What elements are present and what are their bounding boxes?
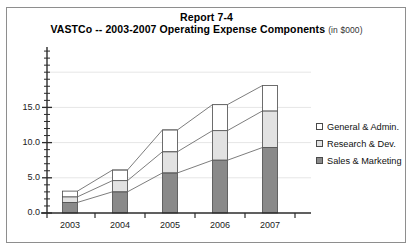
- x-tick-label-2004: 2004: [100, 220, 140, 230]
- bar-segment-sales-marketing-2005: [163, 173, 178, 213]
- bar-segment-general-admin-2004: [113, 170, 128, 181]
- bar-segment-general-admin-2006: [213, 105, 228, 131]
- chart-figure: Report 7-4 VASTCo -- 2003-2007 Operating…: [0, 0, 413, 250]
- y-tick-label-3: 15.0: [10, 102, 40, 112]
- bar-group-2006: [213, 105, 228, 213]
- legend-label-research-dev: Research & Dev.: [327, 139, 396, 149]
- bar-segment-sales-marketing-2007: [263, 148, 278, 214]
- bar-segment-research-dev-2007: [263, 111, 278, 148]
- bar-segment-sales-marketing-2006: [213, 160, 228, 213]
- legend-swatch-general-admin: [316, 123, 323, 130]
- legend-item-research-dev: Research & Dev.: [316, 136, 411, 151]
- y-tick-label-1: 5.0: [10, 172, 40, 182]
- bar-segment-general-admin-2005: [163, 130, 178, 152]
- legend-swatch-sales-marketing: [316, 157, 323, 164]
- x-tick-label-2006: 2006: [200, 220, 240, 230]
- legend-label-general-admin: General & Admin.: [327, 122, 399, 132]
- x-tick-label-2007: 2007: [250, 220, 290, 230]
- bar-segment-sales-marketing-2003: [63, 202, 78, 213]
- bar-segment-general-admin-2003: [63, 191, 78, 197]
- bar-segment-sales-marketing-2004: [113, 192, 128, 213]
- x-tick-label-2005: 2005: [150, 220, 190, 230]
- bar-group-2003: [63, 191, 78, 213]
- bar-segment-research-dev-2005: [163, 152, 178, 173]
- bar-group-2007: [263, 86, 278, 214]
- legend-item-general-admin: General & Admin.: [316, 119, 411, 134]
- y-tick-label-2: 10.0: [10, 137, 40, 147]
- chart-legend: General & Admin. Research & Dev. Sales &…: [316, 119, 411, 170]
- bar-group-2005: [163, 130, 178, 213]
- legend-label-sales-marketing: Sales & Marketing: [327, 156, 402, 166]
- x-axis-ticks: [47, 213, 295, 218]
- bar-segment-research-dev-2003: [63, 197, 78, 203]
- y-tick-label-0: 0.0: [10, 207, 40, 217]
- legend-item-sales-marketing: Sales & Marketing: [316, 153, 411, 168]
- x-tick-label-2003: 2003: [50, 220, 90, 230]
- bar-segment-research-dev-2006: [213, 131, 228, 161]
- bar-segment-general-admin-2007: [263, 86, 278, 111]
- legend-swatch-research-dev: [316, 140, 323, 147]
- bar-segment-research-dev-2004: [113, 181, 128, 192]
